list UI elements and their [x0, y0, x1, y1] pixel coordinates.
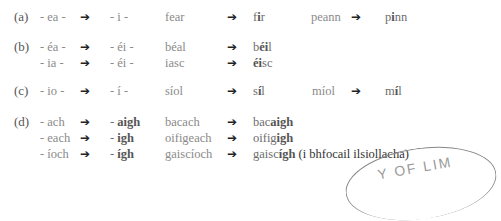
rule-c-to: - í - — [110, 84, 128, 98]
rule-label-d: (d) — [14, 115, 29, 129]
arrow-icon: ➔ — [80, 115, 90, 129]
rule-label-c: (c) — [14, 84, 28, 98]
arrow-icon: ➔ — [227, 147, 237, 161]
arrow-icon: ➔ — [351, 10, 361, 24]
arrow-icon: ➔ — [80, 131, 90, 145]
arrow-icon: ➔ — [80, 147, 90, 161]
rule-d3-from: - íoch — [40, 147, 69, 161]
rule-b2-from: - ia - — [40, 56, 64, 70]
rule-d2-result: oifigigh — [253, 131, 293, 145]
rule-a-example2: peann — [311, 10, 341, 24]
rule-a-to: - i - — [110, 10, 128, 24]
rule-d3-example: gaiscíoch — [165, 147, 212, 161]
rule-a-from: - ea - — [40, 10, 66, 24]
arrow-icon: ➔ — [80, 84, 90, 98]
arrow-icon: ➔ — [351, 84, 361, 98]
arrow-icon: ➔ — [80, 56, 90, 70]
arrow-icon: ➔ — [227, 84, 237, 98]
rule-b2-result: éisc — [253, 56, 272, 70]
rule-c-example: síol — [165, 84, 183, 98]
rule-a-result: fir — [253, 10, 265, 24]
rule-b2-to: - éi - — [110, 56, 134, 70]
rule-b1-to: - éi - — [110, 40, 134, 54]
rule-d2-to: - igh — [110, 131, 134, 145]
rule-b1-example: béal — [165, 40, 186, 54]
rule-d3-to: - ígh — [110, 147, 134, 161]
rule-c-example2: míol — [312, 84, 335, 98]
rule-d2-from: - each — [40, 131, 70, 145]
arrow-icon: ➔ — [227, 10, 237, 24]
rule-d1-to: - aigh — [110, 115, 140, 129]
rule-b1-from: - éa - — [40, 40, 66, 54]
rule-d1-result: bacaigh — [253, 115, 293, 129]
rule-c-result: síl — [253, 84, 265, 98]
rule-d1-from: - ach — [40, 115, 65, 129]
arrow-icon: ➔ — [80, 10, 90, 24]
rule-b2-example: iasc — [165, 56, 184, 70]
arrow-icon: ➔ — [227, 56, 237, 70]
rule-c-from: - io - — [40, 84, 64, 98]
rule-label-a: (a) — [14, 10, 28, 24]
rule-a-example: fear — [165, 10, 184, 24]
rule-d2-example: oifigeach — [165, 131, 212, 145]
rule-label-b: (b) — [14, 40, 29, 54]
rule-c-result2: míl — [385, 84, 402, 98]
rule-b1-result: béil — [253, 40, 272, 54]
arrow-icon: ➔ — [80, 40, 90, 54]
rule-a-result2: pinn — [385, 10, 407, 24]
arrow-icon: ➔ — [227, 131, 237, 145]
arrow-icon: ➔ — [227, 40, 237, 54]
arrow-icon: ➔ — [227, 115, 237, 129]
rule-d1-example: bacach — [165, 115, 200, 129]
